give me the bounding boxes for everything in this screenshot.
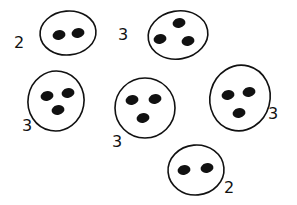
- dot-group-4: 3: [112, 78, 175, 151]
- dot-group-1: 2: [14, 9, 98, 58]
- circle-outline: [202, 58, 277, 137]
- dot-group-6: 2: [166, 143, 234, 198]
- dot: [181, 35, 196, 47]
- dot: [177, 164, 192, 176]
- circle-outline: [23, 67, 89, 136]
- dot: [200, 162, 215, 174]
- dot: [125, 94, 140, 106]
- dot-group-3: 3: [22, 67, 89, 136]
- dot-group-5: 3: [202, 58, 278, 137]
- dot: [148, 93, 163, 105]
- circle-outline: [144, 6, 211, 64]
- dot: [71, 27, 86, 39]
- dot: [61, 87, 76, 99]
- dot: [232, 107, 247, 119]
- dot: [172, 17, 187, 29]
- dot-groups-diagram: 233332: [0, 0, 297, 205]
- dot: [136, 112, 151, 124]
- count-label: 3: [22, 116, 32, 135]
- dot: [242, 86, 257, 98]
- count-label: 3: [268, 104, 278, 123]
- count-label: 2: [224, 178, 234, 197]
- dot: [52, 29, 67, 41]
- count-label: 3: [118, 25, 128, 44]
- dot: [40, 90, 55, 102]
- circle-outline: [115, 78, 175, 138]
- dot-group-2: 3: [118, 6, 212, 64]
- count-label: 3: [112, 132, 122, 151]
- dot: [221, 89, 236, 101]
- circle-outline: [166, 143, 226, 198]
- dot: [51, 104, 66, 116]
- count-label: 2: [14, 33, 24, 52]
- dot: [153, 33, 168, 45]
- circle-outline: [38, 9, 98, 58]
